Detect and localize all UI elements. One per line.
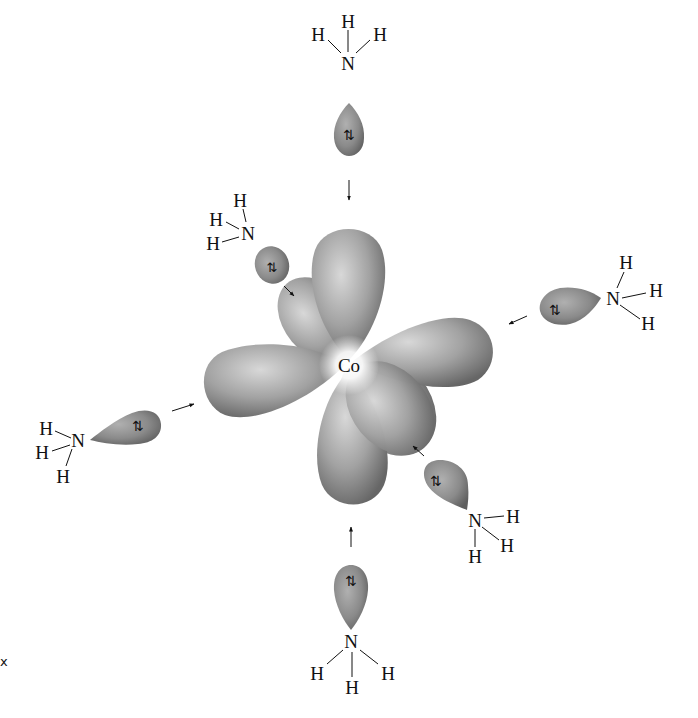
- atom-h: H: [506, 507, 520, 526]
- atom-h: H: [500, 536, 514, 555]
- svg-text:⇅: ⇅: [345, 573, 357, 589]
- atom-n: N: [241, 224, 255, 243]
- axis-label-x: x: [0, 654, 8, 669]
- atom-h: H: [206, 234, 220, 253]
- lone-pair-top: ⇅: [334, 103, 364, 156]
- lone-pair-upper-left: ⇅: [250, 241, 295, 288]
- svg-text:⇅: ⇅: [343, 127, 355, 143]
- atom-n: N: [344, 632, 358, 651]
- atom-h: H: [35, 443, 49, 462]
- arrow-left: [172, 404, 194, 411]
- atom-n: N: [341, 54, 355, 73]
- svg-text:⇅: ⇅: [132, 418, 144, 434]
- lone-pair-lower-right: ⇅: [424, 460, 468, 510]
- atom-h: H: [341, 12, 355, 31]
- atom-n: N: [71, 431, 85, 450]
- arrow-right: [509, 316, 527, 324]
- atom-h: H: [209, 210, 223, 229]
- lone-pair-right: ⇅: [540, 287, 601, 324]
- atom-n: N: [606, 289, 620, 308]
- atom-h: H: [345, 678, 359, 697]
- svg-text:⇅: ⇅: [267, 260, 278, 275]
- lone-pair-left: ⇅: [90, 410, 161, 444]
- atom-h: H: [39, 419, 53, 438]
- lone-pair-bottom: ⇅: [334, 565, 368, 630]
- atom-h: H: [373, 25, 387, 44]
- central-atom-label: Co: [338, 356, 360, 375]
- svg-text:⇅: ⇅: [549, 302, 561, 318]
- atom-h: H: [311, 25, 325, 44]
- atom-h: H: [56, 467, 70, 486]
- atom-h: H: [310, 664, 324, 683]
- atom-h: H: [233, 191, 247, 210]
- ligand-field-diagram: ⇅ ⇅ ⇅ ⇅ ⇅ ⇅: [0, 0, 698, 718]
- atom-h: H: [619, 253, 633, 272]
- svg-text:⇅: ⇅: [430, 473, 442, 489]
- atom-h: H: [468, 547, 482, 566]
- atom-h: H: [649, 281, 663, 300]
- atom-h: H: [381, 664, 395, 683]
- atom-n: N: [468, 511, 482, 530]
- atom-h: H: [641, 314, 655, 333]
